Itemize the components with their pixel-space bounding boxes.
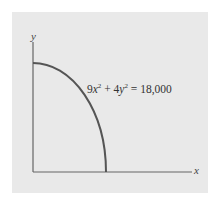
x-axis-label: x bbox=[194, 164, 199, 176]
equation-label: 9x2 + 4y2 = 18,000 bbox=[87, 83, 172, 95]
y-axis-label: y bbox=[31, 30, 36, 42]
ellipse-curve bbox=[33, 63, 106, 172]
